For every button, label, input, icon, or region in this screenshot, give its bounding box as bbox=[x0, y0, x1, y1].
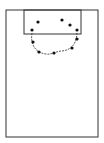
player-dot bbox=[75, 28, 78, 31]
player-dots bbox=[30, 18, 78, 54]
player-dot bbox=[68, 23, 71, 26]
player-dot bbox=[37, 50, 40, 53]
player-dot bbox=[52, 51, 55, 54]
player-dot bbox=[36, 20, 39, 23]
player-dot bbox=[30, 28, 33, 31]
court-boundary bbox=[6, 10, 98, 137]
player-dot bbox=[31, 40, 34, 43]
player-dot bbox=[75, 37, 78, 40]
player-dot bbox=[60, 18, 63, 21]
player-dot bbox=[70, 46, 73, 49]
court-diagram bbox=[0, 0, 104, 143]
